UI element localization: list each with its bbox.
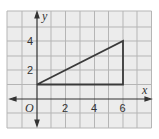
x-tick-6: 6 — [120, 102, 126, 114]
x-tick-2: 2 — [62, 102, 68, 114]
y-tick-4: 4 — [27, 35, 33, 47]
origin-label: O — [25, 101, 34, 115]
x-tick-4: 4 — [91, 102, 97, 114]
x-axis-label: x — [141, 83, 148, 97]
y-tick-2: 2 — [27, 64, 33, 76]
coordinate-plane: y x O 2 4 6 2 4 — [0, 0, 159, 139]
y-axis-label: y — [41, 9, 48, 23]
